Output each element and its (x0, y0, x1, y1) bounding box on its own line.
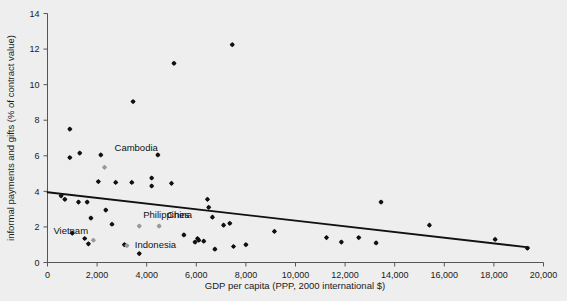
x-axis-title: GDP per capita (PPP, 2000 international … (205, 280, 385, 291)
y-tick-label: 6 (34, 151, 39, 161)
x-tick-label: 0 (45, 270, 50, 280)
x-tick-label: 6,000 (185, 270, 208, 280)
y-tick-label: 10 (29, 80, 39, 90)
x-tick-label: 16,000 (431, 270, 459, 280)
y-tick-label: 14 (29, 9, 39, 19)
y-tick-label: 4 (34, 187, 39, 197)
point-label-cambodia: Cambodia (115, 142, 159, 153)
y-tick-label: 8 (34, 115, 39, 125)
plot-area: 0246810121402,0004,0006,0008,00010,00012… (0, 0, 567, 301)
x-tick-label: 12,000 (331, 270, 359, 280)
point-label-indonesia: Indonesia (135, 239, 177, 250)
chart-background (0, 0, 567, 301)
x-tick-label: 4,000 (135, 270, 158, 280)
x-tick-label: 14,000 (381, 270, 409, 280)
x-tick-label: 20,000 (530, 270, 558, 280)
y-tick-label: 12 (29, 44, 39, 54)
x-tick-label: 2,000 (86, 270, 109, 280)
y-tick-label: 2 (34, 222, 39, 232)
point-label-china: China (167, 209, 193, 220)
point-label-vietnam: Vietnam (53, 225, 88, 236)
y-tick-label: 0 (34, 258, 39, 268)
scatter-chart: 0246810121402,0004,0006,0008,00010,00012… (0, 0, 567, 301)
x-tick-label: 8,000 (235, 270, 258, 280)
x-tick-label: 10,000 (282, 270, 310, 280)
x-tick-label: 18,000 (480, 270, 508, 280)
y-axis-title: informal payments and gifts (% of contra… (5, 35, 16, 241)
